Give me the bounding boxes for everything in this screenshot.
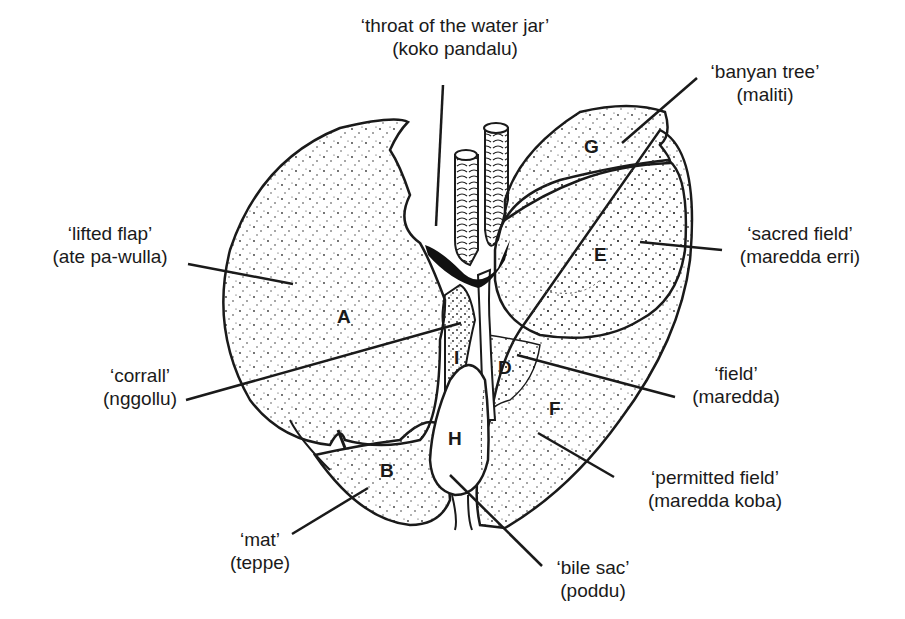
label-term: (koko pandalu) <box>310 37 600 60</box>
region-letter-i: I <box>454 347 459 369</box>
label-gloss: ‘mat’ <box>210 528 310 551</box>
region-letter-e: E <box>594 244 607 266</box>
label-gloss: ‘bile sac’ <box>538 556 648 579</box>
label-sacred-field: ‘sacred field’ (maredda erri) <box>720 222 880 268</box>
label-term: (nggollu) <box>80 387 200 410</box>
label-bile-sac: ‘bile sac’ (poddu) <box>538 556 648 602</box>
label-term: (teppe) <box>210 551 310 574</box>
label-term: (poddu) <box>538 579 648 602</box>
liver-diagram: A B D E F G H I ‘throat of the water jar… <box>0 0 905 619</box>
label-throat-of-the-water-jar: ‘throat of the water jar’ (koko pandalu) <box>310 14 600 60</box>
label-term: (ate pa-wulla) <box>30 245 190 268</box>
label-gloss: ‘corrall’ <box>80 364 200 387</box>
label-term: (maliti) <box>690 83 840 106</box>
label-gloss: ‘field’ <box>676 362 796 385</box>
label-banyan-tree: ‘banyan tree’ (maliti) <box>690 60 840 106</box>
label-term: (maredda erri) <box>720 245 880 268</box>
label-field: ‘field’ (maredda) <box>676 362 796 408</box>
label-gloss: ‘banyan tree’ <box>690 60 840 83</box>
label-term: (maredda koba) <box>620 489 810 512</box>
label-gloss: ‘permitted field’ <box>620 466 810 489</box>
region-letter-g: G <box>584 136 599 158</box>
label-lifted-flap: ‘lifted flap’ (ate pa-wulla) <box>30 222 190 268</box>
label-gloss: ‘sacred field’ <box>720 222 880 245</box>
region-letter-h: H <box>448 428 462 450</box>
label-gloss: ‘lifted flap’ <box>30 222 190 245</box>
region-letter-b: B <box>380 460 394 482</box>
label-corrall: ‘corrall’ (nggollu) <box>80 364 200 410</box>
region-letter-a: A <box>337 306 351 328</box>
region-letter-d: D <box>498 357 512 379</box>
lobe-a <box>223 120 445 448</box>
label-mat: ‘mat’ (teppe) <box>210 528 310 574</box>
label-gloss: ‘throat of the water jar’ <box>310 14 600 37</box>
label-term: (maredda) <box>676 385 796 408</box>
region-letter-f: F <box>549 398 561 420</box>
label-permitted-field: ‘permitted field’ (maredda koba) <box>620 466 810 512</box>
